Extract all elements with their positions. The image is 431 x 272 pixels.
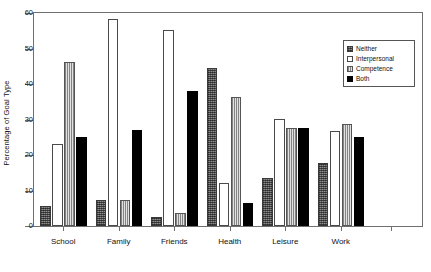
chart-figure: Percentage of Goal Type 0102030405060 Ne… xyxy=(0,0,431,272)
y-axis-tick-label: 40 xyxy=(11,80,33,88)
bar-family-neither xyxy=(96,200,107,226)
legend-swatch-icon xyxy=(347,66,353,72)
bar-work-both xyxy=(354,137,365,226)
bar-school-both xyxy=(76,137,87,226)
legend-swatch-icon xyxy=(347,56,353,62)
bar-family-interpersonal xyxy=(108,19,119,226)
x-axis-tick xyxy=(230,227,231,231)
x-axis-label-work: Work xyxy=(306,237,376,247)
bar-work-competence xyxy=(342,124,353,226)
legend-item-neither[interactable]: Neither xyxy=(347,44,411,53)
legend-swatch-icon xyxy=(347,46,353,52)
bar-health-interpersonal xyxy=(219,183,230,226)
bar-work-interpersonal xyxy=(330,131,341,226)
bar-family-both xyxy=(132,130,143,226)
legend: NeitherInterpersonalCompetenceBoth xyxy=(343,40,415,87)
bar-leisure-neither xyxy=(262,178,273,226)
bar-school-interpersonal xyxy=(52,144,63,226)
legend-item-both[interactable]: Both xyxy=(347,74,411,83)
legend-swatch-icon xyxy=(347,76,353,82)
bar-family-competence xyxy=(120,200,131,226)
y-axis-tick-label: 10 xyxy=(11,187,33,195)
y-axis: 0102030405060 xyxy=(0,0,33,272)
x-axis-tick xyxy=(174,227,175,231)
y-axis-tick-label: 0 xyxy=(11,222,33,230)
y-axis-tick-label: 60 xyxy=(11,9,33,17)
bar-work-neither xyxy=(318,163,329,226)
bar-school-neither xyxy=(40,206,51,226)
legend-label: Competence xyxy=(356,65,393,72)
bar-friends-both xyxy=(187,91,198,226)
legend-label: Interpersonal xyxy=(356,55,394,62)
bar-health-neither xyxy=(207,68,218,226)
x-axis-tick xyxy=(341,227,342,231)
bar-health-both xyxy=(243,203,254,226)
y-axis-tick-label: 30 xyxy=(11,116,33,124)
legend-item-interpersonal[interactable]: Interpersonal xyxy=(347,54,411,63)
x-axis-tick xyxy=(391,227,392,231)
x-axis-tick xyxy=(285,227,286,231)
x-axis-tick xyxy=(63,227,64,231)
bar-school-competence xyxy=(64,62,75,226)
bar-leisure-competence xyxy=(286,128,297,226)
legend-item-competence[interactable]: Competence xyxy=(347,64,411,73)
y-axis-tick-label: 50 xyxy=(11,45,33,53)
bar-health-competence xyxy=(231,97,242,226)
bar-friends-neither xyxy=(151,217,162,226)
y-axis-tick-label: 20 xyxy=(11,151,33,159)
bar-friends-competence xyxy=(175,213,186,226)
x-axis-tick xyxy=(119,227,120,231)
bar-friends-interpersonal xyxy=(163,30,174,226)
legend-label: Both xyxy=(356,75,369,82)
legend-label: Neither xyxy=(356,45,377,52)
bar-leisure-interpersonal xyxy=(274,119,285,226)
bar-leisure-both xyxy=(298,128,309,226)
